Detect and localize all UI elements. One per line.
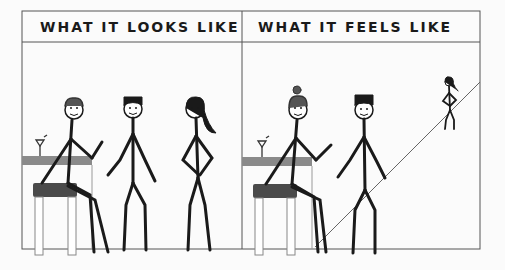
- panel-caption-feels: WHAT IT FEELS LIKE: [258, 19, 452, 35]
- bar-stool: [253, 184, 297, 198]
- stick-figure-seated-woman: [266, 86, 331, 252]
- panel-caption-looks: WHAT IT LOOKS LIKE: [40, 19, 240, 35]
- panel-left-scene: [22, 97, 216, 255]
- stick-figure-woman: [183, 97, 216, 250]
- stick-figure-man: [338, 95, 385, 253]
- stick-figure-woman-distant: [443, 77, 458, 129]
- martini-icon: [258, 136, 269, 157]
- comic-strip: WHAT IT LOOKS LIKE WHAT IT FEELS LIKE: [0, 0, 505, 270]
- panel-right-scene: [242, 77, 480, 255]
- martini-icon: [36, 135, 47, 156]
- comic-illustration: [0, 0, 505, 270]
- stick-figure-man: [108, 97, 155, 250]
- steep-slope-line: [315, 82, 480, 247]
